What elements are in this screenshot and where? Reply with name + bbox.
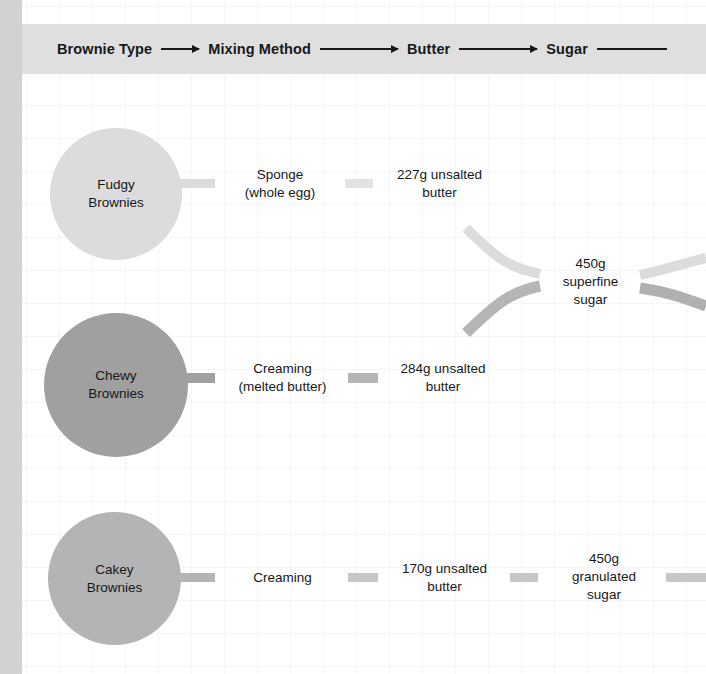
node-granulated-sugar-line1: 450g xyxy=(572,550,636,568)
node-sugar-granulated[interactable]: 450g granulated sugar xyxy=(541,538,667,616)
node-cakey-label-line2: Brownies xyxy=(87,579,143,597)
node-brownie-type-fudgy[interactable]: Fudgy Brownies xyxy=(50,128,182,260)
link-cakey-type-to-method xyxy=(180,573,215,582)
node-superfine-sugar-line3: sugar xyxy=(563,291,619,309)
header-flow: Brownie Type Mixing Method Butter Sugar xyxy=(0,24,706,74)
node-sugar-superfine[interactable]: 450g superfine sugar xyxy=(541,243,640,321)
header-column-butter: Butter xyxy=(407,41,450,57)
node-brownie-type-chewy[interactable]: Chewy Brownies xyxy=(44,313,188,457)
node-fudgy-butter-line1: 227g unsalted xyxy=(397,166,482,184)
node-granulated-sugar-line2: granulated xyxy=(572,568,636,586)
node-chewy-method-line1: Creaming xyxy=(239,360,327,378)
link-fudgy-type-to-method xyxy=(180,179,215,188)
header-arrow-2-icon xyxy=(320,48,398,50)
node-chewy-label-line1: Chewy xyxy=(88,367,144,385)
node-fudgy-method-line2: (whole egg) xyxy=(245,184,316,202)
link-fudgy-butter-to-sugar xyxy=(466,228,540,274)
node-fudgy-label-line2: Brownies xyxy=(88,194,144,212)
node-mixing-method-chewy[interactable]: Creaming (melted butter) xyxy=(215,349,350,407)
link-chewy-method-to-butter xyxy=(348,373,378,383)
node-mixing-method-cakey[interactable]: Creaming xyxy=(215,563,350,593)
link-chewy-butter-to-sugar xyxy=(466,286,540,333)
node-chewy-label-line2: Brownies xyxy=(88,385,144,403)
header-arrow-1-icon xyxy=(161,48,199,50)
node-butter-cakey[interactable]: 170g unsalted butter xyxy=(378,549,511,607)
header-arrow-4-icon xyxy=(597,48,667,50)
left-margin-strip xyxy=(0,0,22,674)
node-mixing-method-fudgy[interactable]: Sponge (whole egg) xyxy=(215,155,345,213)
node-chewy-method-line2: (melted butter) xyxy=(239,378,327,396)
node-cakey-butter-line1: 170g unsalted xyxy=(402,560,487,578)
node-brownie-type-cakey[interactable]: Cakey Brownies xyxy=(48,512,181,645)
link-superfine-sugar-out-lower xyxy=(640,288,706,306)
header-column-sugar: Sugar xyxy=(546,41,588,57)
link-cakey-method-to-butter xyxy=(348,573,378,582)
link-cakey-butter-to-sugar xyxy=(510,573,538,582)
link-superfine-sugar-out-upper xyxy=(640,258,706,275)
node-chewy-butter-line2: butter xyxy=(401,378,486,396)
node-cakey-butter-line2: butter xyxy=(402,578,487,596)
node-fudgy-label-line1: Fudgy xyxy=(88,176,144,194)
node-butter-fudgy[interactable]: 227g unsalted butter xyxy=(373,155,506,213)
header-column-mixing-method: Mixing Method xyxy=(208,41,311,57)
header-column-brownie-type: Brownie Type xyxy=(57,41,152,57)
node-superfine-sugar-line2: superfine xyxy=(563,273,619,291)
node-fudgy-butter-line2: butter xyxy=(397,184,482,202)
node-butter-chewy[interactable]: 284g unsalted butter xyxy=(378,349,508,407)
link-fudgy-method-to-butter xyxy=(345,179,373,188)
node-chewy-butter-line1: 284g unsalted xyxy=(401,360,486,378)
node-cakey-label-line1: Cakey xyxy=(87,561,143,579)
header-arrow-3-icon xyxy=(459,48,537,50)
link-granulated-sugar-out xyxy=(666,573,706,582)
node-superfine-sugar-line1: 450g xyxy=(563,255,619,273)
diagram-canvas: Brownie Type Mixing Method Butter Sugar … xyxy=(0,0,706,674)
node-fudgy-method-line1: Sponge xyxy=(245,166,316,184)
node-cakey-method-line1: Creaming xyxy=(253,569,312,587)
node-granulated-sugar-line3: sugar xyxy=(572,586,636,604)
